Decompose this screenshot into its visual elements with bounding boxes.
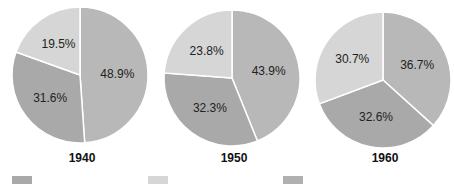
slice-label: 32.3%	[193, 101, 227, 115]
legend-swatch	[12, 176, 32, 184]
pie-year-label: 1950	[221, 151, 248, 165]
legend-swatch	[283, 176, 303, 184]
slice-label: 48.9%	[100, 67, 134, 81]
pie-1940: 48.9%31.6%19.5%1940	[12, 7, 148, 165]
legend-swatch	[148, 176, 168, 184]
slice-label: 43.9%	[252, 64, 286, 78]
pie-year-label: 1940	[69, 151, 96, 165]
slice-label: 30.7%	[335, 52, 369, 66]
pie-1950: 43.9%32.3%23.8%1950	[164, 10, 300, 165]
slice-label: 31.6%	[33, 91, 67, 105]
slice-label: 32.6%	[359, 110, 393, 124]
pie-charts: 48.9%31.6%19.5%194043.9%32.3%23.8%195036…	[0, 0, 454, 184]
slice-label: 23.8%	[190, 44, 224, 58]
pie-year-label: 1960	[372, 151, 399, 165]
slice-label: 19.5%	[41, 37, 75, 51]
pie-1960: 36.7%32.6%30.7%1960	[315, 12, 451, 165]
slice-label: 36.7%	[400, 58, 434, 72]
